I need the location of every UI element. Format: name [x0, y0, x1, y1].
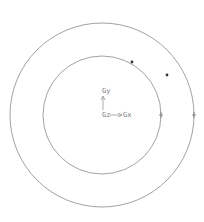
z-axis-label: Gz — [102, 111, 110, 119]
x-axis-label: Gx — [123, 111, 131, 119]
y-axis-arrow — [101, 96, 105, 110]
marker-dot-2 — [166, 74, 169, 77]
y-axis-label: Gy — [102, 87, 110, 95]
marker-plus-1 — [159, 112, 163, 118]
x-axis-arrow — [110, 113, 122, 117]
marker-dot-1 — [131, 61, 134, 64]
diagram-canvas: Gy Gz Gx — [0, 0, 204, 222]
marker-plus-2 — [192, 112, 196, 118]
